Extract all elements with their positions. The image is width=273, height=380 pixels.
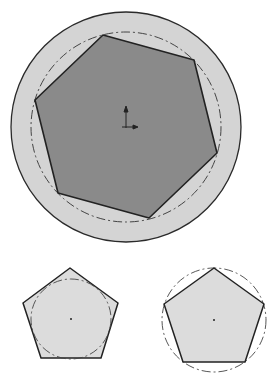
circumscribed-pentagon-group xyxy=(23,268,118,359)
polygon-diagram xyxy=(0,0,273,380)
hexagon-group xyxy=(11,12,241,242)
pentagon-circumscribed xyxy=(23,268,118,358)
center-point-icon xyxy=(70,318,72,320)
inscribed-pentagon-group xyxy=(162,268,266,372)
center-point-icon xyxy=(213,319,215,321)
